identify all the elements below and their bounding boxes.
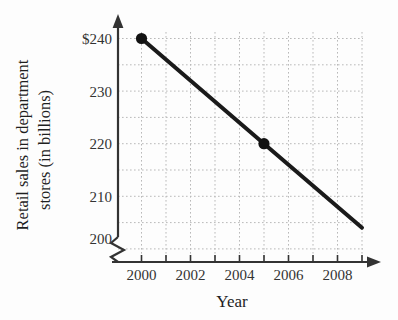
ytick-label-200: 200 (90, 231, 113, 247)
xtick-label-2000: 2000 (127, 267, 157, 283)
xtick-label-2004: 2004 (225, 267, 256, 283)
x-axis-title: Year (216, 292, 248, 311)
chart-figure: $240 230 220 210 200 2000 2002 2004 2006… (0, 0, 398, 320)
xtick-label-2008: 2008 (323, 267, 353, 283)
ytick-label-230: 230 (90, 84, 113, 100)
y-axis-title-line1: Retail sales in department (13, 59, 32, 230)
data-point-2000 (136, 33, 147, 44)
y-axis-arrowhead-icon (113, 14, 124, 28)
data-point-2005 (258, 138, 269, 149)
ytick-label-210: 210 (90, 189, 113, 205)
ytick-label-220: 220 (90, 136, 113, 152)
x-axis-arrowhead-icon (367, 256, 381, 267)
line-chart-canvas: $240 230 220 210 200 2000 2002 2004 2006… (0, 0, 398, 320)
y-axis-title-line2: stores (in billions) (35, 90, 54, 210)
x-axis (112, 256, 381, 267)
xtick-label-2002: 2002 (176, 267, 206, 283)
xtick-label-2006: 2006 (274, 267, 305, 283)
ytick-label-240: $240 (82, 31, 112, 47)
